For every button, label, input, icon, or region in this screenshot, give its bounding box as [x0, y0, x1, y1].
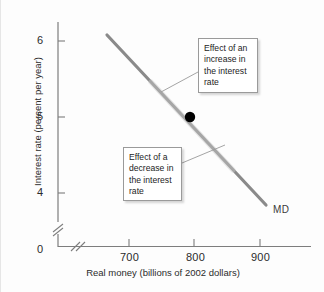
- x-tick-label-900: 900: [251, 251, 270, 263]
- callout-increase-line3: the interest: [204, 66, 252, 77]
- callout-increase: Effect of an increase in the interest ra…: [198, 38, 258, 93]
- x-tick-label-700: 700: [120, 251, 139, 263]
- callout-increase-line1: Effect of an: [204, 43, 252, 54]
- y-axis-ticks: [58, 41, 65, 193]
- callout-increase-line2: increase in: [204, 54, 252, 65]
- money-demand-chart: 6 5 4 0 700 800 900 Interest rate (perce…: [0, 0, 324, 292]
- x-axis-ticks: [129, 239, 260, 246]
- y-tick-label-0: 0: [37, 243, 43, 255]
- callout-decrease-line3: the interest: [129, 175, 176, 186]
- md-curve-label: MD: [273, 204, 289, 215]
- plot-area: [1, 0, 324, 292]
- callout-decrease-line2: decrease in: [129, 163, 176, 174]
- equilibrium-point-marker: [185, 112, 195, 122]
- callout-decrease-line4: rate: [129, 186, 176, 197]
- callout-increase-line4: rate: [204, 77, 252, 88]
- callout-decrease: Effect of a decrease in the interest rat…: [123, 147, 182, 201]
- y-axis-title: Interest rate (percent per year): [32, 37, 43, 207]
- x-axis-title: Real money (billions of 2002 dollars): [1, 267, 324, 278]
- callout-decrease-line1: Effect of a: [129, 152, 176, 163]
- x-tick-label-800: 800: [186, 251, 205, 263]
- callout-increase-leader: [161, 72, 198, 92]
